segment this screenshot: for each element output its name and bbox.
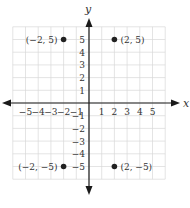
y-tick-label: −3 — [72, 137, 86, 147]
y-tick-label: 4 — [79, 48, 85, 58]
x-axis-arrow-left-icon — [2, 100, 11, 107]
point-marker-icon — [61, 37, 67, 43]
point-marker-icon — [112, 37, 118, 43]
y-axis-arrow-down-icon — [86, 186, 93, 195]
x-tick-label: −3 — [44, 107, 58, 117]
point-marker-icon — [112, 164, 118, 170]
x-tick-label: 5 — [150, 107, 156, 117]
y-tick-label: 5 — [79, 35, 85, 45]
y-tick-label: 2 — [79, 73, 85, 83]
data-point: (−2, 5) — [26, 35, 67, 45]
point-label: (2, −5) — [120, 162, 152, 172]
y-tick-label: −4 — [72, 149, 86, 159]
x-axis-arrow-right-icon — [171, 100, 180, 107]
y-tick-label: −5 — [72, 162, 86, 172]
point-label: (2, 5) — [120, 35, 144, 45]
y-tick-label: −1 — [72, 111, 85, 121]
x-tick-label: −5 — [19, 107, 33, 117]
x-tick-label: −2 — [57, 107, 70, 117]
data-point: (2, −5) — [112, 162, 153, 172]
point-label: (−2, −5) — [18, 162, 57, 172]
x-axis-label: x — [183, 97, 190, 110]
y-axis-label: y — [84, 3, 92, 16]
data-point: (−2, −5) — [18, 162, 66, 172]
y-tick-label: 3 — [79, 60, 85, 70]
x-tick-label: 4 — [137, 107, 143, 117]
point-label: (−2, 5) — [26, 35, 58, 45]
y-tick-label: −2 — [72, 124, 85, 134]
point-marker-icon — [61, 164, 67, 170]
x-tick-label: −4 — [32, 107, 46, 117]
y-tick-label: 1 — [79, 86, 85, 96]
y-axis-arrow-up-icon — [86, 18, 93, 27]
x-tick-label: 2 — [112, 107, 118, 117]
x-tick-label: 3 — [124, 107, 130, 117]
coordinate-plane: x y −5−4−3−2−112345 54321−1−2−3−4−5 (−2,… — [0, 0, 190, 208]
data-point: (2, 5) — [112, 35, 145, 45]
x-tick-label: 1 — [99, 107, 105, 117]
